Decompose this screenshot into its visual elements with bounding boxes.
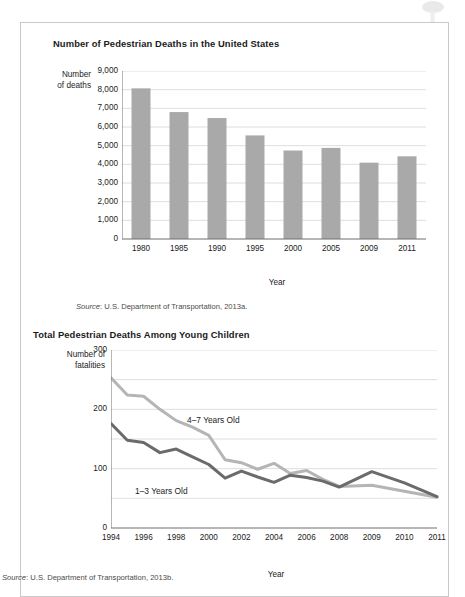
line-chart-x-tick: 1994	[94, 533, 128, 542]
bar-chart-plot-area	[122, 71, 432, 261]
line-chart-x-tick: 2008	[322, 533, 356, 542]
bar-chart-y-tick: 3,000	[61, 178, 118, 187]
line-chart-x-tick: 2006	[290, 533, 324, 542]
bar-chart-x-axis-caption: Year	[122, 278, 432, 287]
line-chart-x-tick: 1996	[127, 533, 161, 542]
line-chart-source: Source: U.S. Department of Transportatio…	[2, 573, 173, 582]
bar-chart-source-rest: : U.S. Department of Transportation, 201…	[100, 302, 247, 311]
bar-chart-source-prefix: Source	[76, 302, 100, 311]
bar-chart-x-tick: 2009	[349, 244, 389, 253]
bar-chart-x-tick: 2005	[311, 244, 351, 253]
line-chart-x-tick: 2009	[355, 533, 389, 542]
bar-chart-x-tick: 1995	[235, 244, 275, 253]
bar-chart-y-tick: 1,000	[61, 215, 118, 224]
bar-chart-x-tick: 1980	[121, 244, 161, 253]
bar-chart-y-tick: 6,000	[61, 122, 118, 131]
bar-chart-x-tick: 2011	[387, 244, 427, 253]
bar-chart-x-tick: 2000	[273, 244, 313, 253]
line-chart-series-label: 1–3 Years Old	[135, 486, 188, 496]
line-chart-source-prefix: Source	[2, 573, 26, 582]
line-chart-y-tick: 300	[73, 345, 107, 354]
line-chart-source-rest: : U.S. Department of Transportation, 201…	[26, 573, 173, 582]
line-chart-title: Total Pedestrian Deaths Among Young Chil…	[33, 329, 250, 340]
figure-card: Number of Pedestrian Deaths in the Unite…	[20, 22, 449, 597]
bar-chart-y-tick: 5,000	[61, 141, 118, 150]
line-chart-x-tick: 2002	[224, 533, 258, 542]
bar-chart-y-tick: 7,000	[61, 103, 118, 112]
bar-chart-y-tick: 8,000	[61, 85, 118, 94]
line-chart-x-tick: 2000	[192, 533, 226, 542]
bar-chart-x-tick: 1985	[159, 244, 199, 253]
line-chart-y-axis-caption-line2: fatalities	[21, 361, 105, 372]
line-chart-x-tick: 2011	[420, 533, 454, 542]
bar-chart-y-tick: 9,000	[61, 66, 118, 75]
line-chart-x-tick: 1998	[159, 533, 193, 542]
line-chart-y-tick: 200	[73, 404, 107, 413]
bar-chart-source: Source: U.S. Department of Transportatio…	[76, 302, 247, 311]
bar-chart-y-tick: 2,000	[61, 197, 118, 206]
line-chart-y-tick: 0	[73, 523, 107, 532]
line-chart-x-tick: 2004	[257, 533, 291, 542]
bar-chart-y-tick: 4,000	[61, 159, 118, 168]
bar-chart-y-tick: 0	[61, 234, 118, 243]
line-chart-y-tick: 100	[73, 464, 107, 473]
bar-chart-title: Number of Pedestrian Deaths in the Unite…	[53, 38, 279, 49]
bar-chart-x-tick: 1990	[197, 244, 237, 253]
line-chart-x-tick: 2010	[387, 533, 421, 542]
line-chart-plot-area	[111, 350, 441, 550]
line-chart-series-label: 4–7 Years Old	[187, 415, 240, 425]
